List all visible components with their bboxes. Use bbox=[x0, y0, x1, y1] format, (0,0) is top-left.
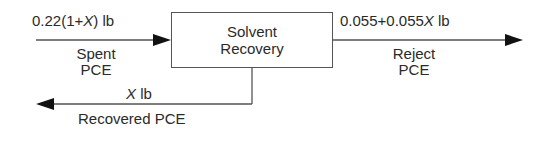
reject-name-label: Reject PCE bbox=[381, 46, 447, 78]
recovered-quantity-label: X lb bbox=[126, 86, 152, 102]
reject-quantity-label: 0.055+0.055X lb bbox=[340, 13, 450, 29]
spent-quantity-label: 0.22(1+X) lb bbox=[32, 13, 114, 29]
spent-name-label: Spent PCE bbox=[66, 46, 126, 78]
process-flow-diagram: Solvent Recovery 0.22(1+X) lb Spent PCE … bbox=[0, 0, 543, 156]
block-label-line2: Recovery bbox=[220, 40, 283, 57]
solvent-recovery-block: Solvent Recovery bbox=[171, 12, 333, 68]
recovered-name-label: Recovered PCE bbox=[78, 111, 186, 127]
block-label-line1: Solvent bbox=[227, 23, 277, 40]
